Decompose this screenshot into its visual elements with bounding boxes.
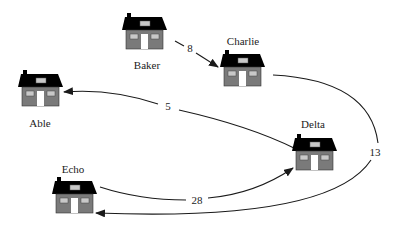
node-baker: Baker bbox=[122, 13, 167, 71]
edge-weight-label: 8 bbox=[187, 42, 193, 54]
node-label: Echo bbox=[62, 163, 85, 175]
node-echo: Echo bbox=[52, 163, 97, 213]
house-icon bbox=[292, 134, 337, 170]
edge-weight-label: 5 bbox=[165, 100, 171, 112]
edge-weight-label: 28 bbox=[192, 194, 204, 206]
edge-delta-able: 5 bbox=[64, 91, 296, 149]
node-label: Delta bbox=[301, 118, 325, 130]
edge-echo-delta: 28 bbox=[100, 168, 293, 206]
node-label: Baker bbox=[134, 59, 161, 71]
house-icon bbox=[18, 70, 63, 106]
node-charlie: Charlie bbox=[220, 35, 265, 86]
edge-weight-label: 13 bbox=[370, 146, 382, 158]
node-label: Charlie bbox=[227, 35, 259, 47]
house-icon bbox=[122, 13, 167, 49]
node-label: Able bbox=[29, 117, 51, 129]
node-able: Able bbox=[18, 70, 63, 129]
house-icon bbox=[52, 177, 97, 213]
graph-canvas: 8 5 28 13 Baker Charlie Able Delta Echo bbox=[0, 0, 402, 236]
node-delta: Delta bbox=[292, 118, 337, 170]
edge-baker-charlie: 8 bbox=[175, 41, 218, 67]
house-icon bbox=[220, 50, 265, 86]
